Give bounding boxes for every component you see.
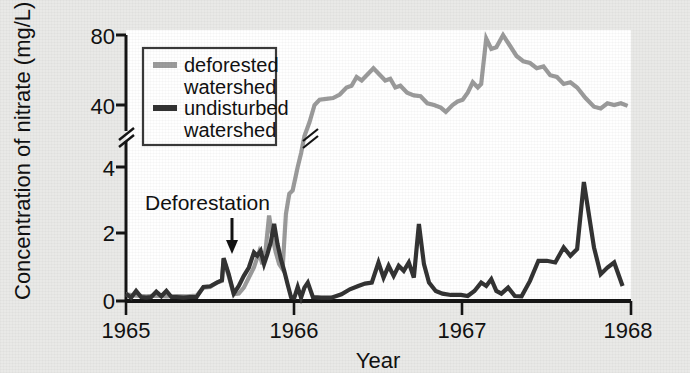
x-axis-title: Year — [356, 348, 400, 373]
y-tick-label-80: 80 — [91, 24, 115, 49]
legend-label-deforested-line1: deforested — [184, 54, 279, 76]
x-tick-label-1965: 1965 — [102, 318, 151, 343]
legend-label-undisturbed-line2: watershed — [183, 119, 276, 141]
x-tick-label-1967: 1967 — [438, 318, 487, 343]
legend-label-deforested-line2: watershed — [183, 76, 276, 98]
y-axis-title: Concentration of nitrate (mg/L) — [10, 2, 35, 300]
y-tick-label-2: 2 — [103, 221, 115, 246]
figure-container: Concentration of nitrate (mg/L) 80 40 4 … — [0, 0, 690, 373]
deforestation-annotation-label: Deforestation — [145, 191, 270, 214]
x-tick-label-1968: 1968 — [604, 318, 653, 343]
x-tick-label-1966: 1966 — [270, 318, 319, 343]
legend-label-undisturbed-line1: undisturbed — [184, 97, 289, 119]
y-tick-label-0: 0 — [103, 289, 115, 314]
nitrate-concentration-line-chart: Concentration of nitrate (mg/L) 80 40 4 … — [0, 0, 690, 373]
y-tick-label-4: 4 — [103, 156, 115, 181]
y-tick-label-40: 40 — [91, 94, 115, 119]
